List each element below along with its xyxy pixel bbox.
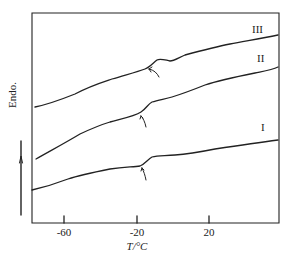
curve-label-II: II bbox=[257, 52, 264, 64]
curve-I bbox=[32, 140, 278, 190]
tg-arrow-II bbox=[140, 116, 146, 127]
x-tick-label: -60 bbox=[57, 226, 72, 238]
x-axis-label: T/°C bbox=[127, 240, 148, 252]
curve-label-III: III bbox=[252, 23, 263, 35]
plot-frame bbox=[32, 13, 279, 223]
x-tick-label: -20 bbox=[130, 226, 145, 238]
x-tick-label: 20 bbox=[204, 226, 215, 238]
dsc-chart bbox=[0, 0, 294, 257]
tg-arrow-III bbox=[149, 67, 159, 77]
tg-arrow-I bbox=[141, 168, 146, 180]
curve-label-I: I bbox=[261, 121, 265, 133]
curve-III bbox=[35, 35, 278, 107]
y-axis-label: Endo. bbox=[6, 82, 18, 108]
